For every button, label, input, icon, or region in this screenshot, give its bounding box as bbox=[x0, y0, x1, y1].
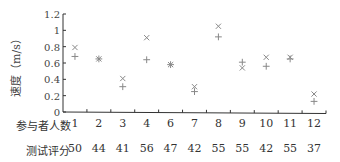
score-cell: 42 bbox=[259, 142, 273, 155]
y-axis-title: 速度（m/s） bbox=[3, 30, 27, 100]
plus-marker bbox=[72, 53, 79, 60]
score-cell: 42 bbox=[188, 142, 202, 155]
y-tick-label: 1.2 bbox=[36, 9, 60, 20]
participants-cell: 7 bbox=[191, 117, 198, 130]
participants-cell: 11 bbox=[283, 117, 297, 130]
score-cell: 37 bbox=[307, 142, 321, 155]
y-tick-label: 1 bbox=[36, 25, 60, 36]
plus-marker bbox=[239, 59, 246, 66]
plus-marker bbox=[311, 98, 318, 105]
plus-marker bbox=[119, 83, 126, 90]
score-cell: 55 bbox=[235, 142, 249, 155]
score-cell: 47 bbox=[164, 142, 178, 155]
participants-cell: 1 bbox=[71, 117, 78, 130]
x-marker bbox=[216, 24, 221, 29]
participants-cell: 9 bbox=[239, 117, 246, 130]
plus-marker bbox=[263, 63, 270, 70]
participants-cell: 4 bbox=[143, 117, 150, 130]
x-marker bbox=[144, 35, 149, 40]
plus-marker bbox=[215, 33, 222, 40]
score-cell: 55 bbox=[283, 142, 297, 155]
plus-marker bbox=[287, 56, 294, 63]
score-cell: 56 bbox=[140, 142, 154, 155]
y-tick-label: 0.2 bbox=[36, 90, 60, 101]
score-cell: 41 bbox=[116, 142, 130, 155]
x-marker bbox=[264, 55, 269, 60]
participants-cell: 10 bbox=[259, 117, 273, 130]
x-marker bbox=[240, 65, 245, 70]
x-marker bbox=[72, 45, 77, 50]
participants-cell: 2 bbox=[95, 117, 102, 130]
y-tick-label: 0.6 bbox=[36, 58, 60, 69]
plus-marker bbox=[143, 56, 150, 63]
score-cell: 50 bbox=[68, 142, 82, 155]
y-tick-label: 0.4 bbox=[36, 74, 60, 85]
participants-cell: 12 bbox=[307, 117, 321, 130]
score-row-label: 测试评分 bbox=[26, 142, 70, 158]
x-marker bbox=[311, 91, 316, 96]
score-cell: 55 bbox=[211, 142, 225, 155]
score-cell: 44 bbox=[92, 142, 106, 155]
x-axis-line bbox=[63, 112, 326, 114]
participants-cell: 6 bbox=[167, 117, 174, 130]
y-tick-label: 0.8 bbox=[36, 41, 60, 52]
participants-row-label: 参与者人数 bbox=[16, 117, 71, 133]
participants-cell: 8 bbox=[215, 117, 222, 130]
x-marker bbox=[120, 76, 125, 81]
y-axis-title-text: 速度（m/s） bbox=[7, 33, 23, 97]
participants-cell: 3 bbox=[119, 117, 126, 130]
y-tick-label: 0 bbox=[36, 107, 60, 118]
